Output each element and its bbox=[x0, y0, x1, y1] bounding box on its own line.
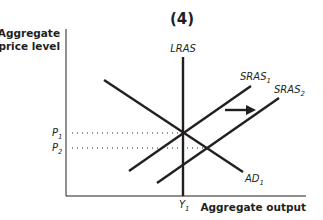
sras2-curve bbox=[157, 98, 279, 183]
lras-label: LRAS bbox=[170, 43, 196, 54]
shift-right-arrow-icon bbox=[225, 105, 256, 115]
p1-label: P1 bbox=[52, 127, 63, 141]
x-axis-label: Aggregate output bbox=[200, 201, 306, 213]
sras1-curve bbox=[129, 86, 251, 171]
y1-label: Y1 bbox=[179, 199, 190, 213]
p2-label: P2 bbox=[52, 142, 63, 156]
ad1-label: AD1 bbox=[244, 173, 264, 187]
as-ad-diagram: (4) Aggregate price level Aggregate outp… bbox=[0, 0, 323, 220]
ad1-curve bbox=[104, 80, 243, 172]
y-axis-label-line1: Aggregate bbox=[0, 27, 60, 39]
sras2-label: SRAS2 bbox=[274, 84, 305, 98]
y-axis-label-line2: price level bbox=[0, 40, 60, 52]
panel-label: (4) bbox=[170, 10, 194, 28]
sras1-label: SRAS1 bbox=[240, 71, 271, 85]
